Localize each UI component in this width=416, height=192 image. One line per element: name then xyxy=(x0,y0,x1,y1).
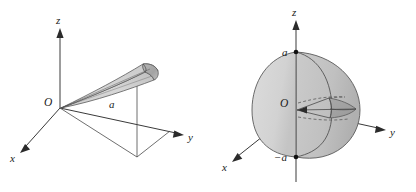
z-axis-label-left: z xyxy=(55,14,61,26)
xy-projection-left xyxy=(60,108,170,157)
point-a-marker xyxy=(294,50,299,55)
point-negative-a-label: −a xyxy=(274,151,287,163)
hemisphere-wedge-svg: z x y xyxy=(208,0,416,192)
z-axis-label-right: z xyxy=(291,6,297,18)
cone-wedge-diagram: z x y O xyxy=(0,0,208,192)
hemisphere-wedge-diagram: z x y xyxy=(208,0,416,192)
y-axis-left xyxy=(60,108,184,138)
point-a-label: a xyxy=(282,46,288,58)
point-negative-a-marker xyxy=(294,155,299,160)
dimension-label-left: a xyxy=(109,98,115,110)
y-axis-label-left: y xyxy=(187,131,193,143)
cone-wedge-svg: z x y O xyxy=(0,0,208,192)
x-axis-left xyxy=(20,108,60,153)
origin-label-left: O xyxy=(44,96,53,108)
y-axis-label-right: y xyxy=(389,126,395,138)
x-axis-label-right: x xyxy=(221,161,227,173)
z-axis-left xyxy=(56,28,63,108)
figure-pair: z x y O xyxy=(0,0,416,192)
x-axis-label-left: x xyxy=(9,152,15,164)
origin-label-right: O xyxy=(280,97,289,109)
